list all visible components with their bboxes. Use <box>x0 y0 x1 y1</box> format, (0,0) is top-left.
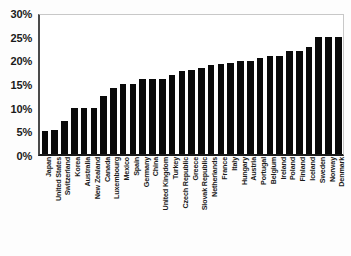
x-label-cell: Korea <box>69 157 79 256</box>
bar <box>296 51 303 154</box>
x-label-cell: New Zealand <box>89 157 99 256</box>
x-label-cell: Sweden <box>314 157 324 256</box>
x-label-cell: Portugal <box>255 157 265 256</box>
x-label-cell: Italy <box>226 157 236 256</box>
bar-cell <box>177 14 187 154</box>
bar <box>100 96 107 154</box>
x-label-cell: Iceland <box>304 157 314 256</box>
bar-cell <box>167 14 177 154</box>
bar <box>276 56 283 154</box>
y-axis: 30%25%20%15%10%5%0% <box>0 0 36 162</box>
x-label-cell: United States <box>50 157 60 256</box>
bar-cell <box>226 14 236 154</box>
bar-cell <box>255 14 265 154</box>
bars-container <box>40 14 343 154</box>
bar-cell <box>157 14 167 154</box>
x-label-cell: Denmark <box>333 157 343 256</box>
x-label-cell: Germany <box>138 157 148 256</box>
bar-cell <box>304 14 314 154</box>
y-tick-label: 15% <box>11 79 32 91</box>
x-label-cell: China <box>148 157 158 256</box>
bar-cell <box>245 14 255 154</box>
x-label-cell: Ireland <box>275 157 285 256</box>
bar <box>51 130 58 154</box>
x-label-cell: Slovak Republic <box>197 157 207 256</box>
bar <box>81 108 88 154</box>
x-label-cell: Czech Republic <box>177 157 187 256</box>
bar <box>306 47 313 154</box>
bar-cell <box>99 14 109 154</box>
bar <box>227 63 234 154</box>
bar <box>110 88 117 154</box>
x-label-cell: Turkey <box>167 157 177 256</box>
bar-cell <box>79 14 89 154</box>
x-label-cell: Spain <box>128 157 138 256</box>
x-label-cell: Hungary <box>236 157 246 256</box>
bar <box>188 70 195 154</box>
bar <box>169 75 176 154</box>
x-label-cell: Switzerland <box>60 157 70 256</box>
x-label-cell: Luxembourg <box>108 157 118 256</box>
y-tick-label: 25% <box>11 32 32 44</box>
bar <box>42 131 49 154</box>
x-label-cell: Belgium <box>265 157 275 256</box>
bar <box>159 79 166 154</box>
bar <box>267 56 274 154</box>
bar-cell <box>275 14 285 154</box>
bar-cell <box>197 14 207 154</box>
x-label-cell: Greece <box>187 157 197 256</box>
y-tick-label: 30% <box>11 8 32 20</box>
x-label-cell: Mexico <box>118 157 128 256</box>
bar-cell <box>216 14 226 154</box>
bar-cell <box>236 14 246 154</box>
bar-cell <box>324 14 334 154</box>
bar-cell <box>294 14 304 154</box>
y-tick-label: 0% <box>17 150 33 162</box>
bar-cell <box>206 14 216 154</box>
bar-cell <box>285 14 295 154</box>
bar-cell <box>265 14 275 154</box>
bar-cell <box>118 14 128 154</box>
x-label-cell: United Kingdom <box>157 157 167 256</box>
bar-cell <box>50 14 60 154</box>
x-label-cell: Finland <box>294 157 304 256</box>
bar <box>149 79 156 154</box>
bar <box>257 58 264 154</box>
bar-cell <box>89 14 99 154</box>
x-label-cell: Norway <box>324 157 334 256</box>
x-label-cell: Japan <box>40 157 50 256</box>
y-tick-label: 10% <box>11 103 32 115</box>
x-label-cell: Canada <box>99 157 109 256</box>
bar-cell <box>108 14 118 154</box>
bar-cell <box>40 14 50 154</box>
bar-cell <box>128 14 138 154</box>
bar <box>325 37 332 154</box>
bar-cell <box>314 14 324 154</box>
bar-cell <box>138 14 148 154</box>
bar-cell <box>60 14 70 154</box>
x-label-cell: France <box>216 157 226 256</box>
bar <box>237 61 244 154</box>
bar <box>139 79 146 154</box>
x-label-cell: Australia <box>79 157 89 256</box>
bar <box>179 71 186 154</box>
y-tick-label: 20% <box>11 55 32 67</box>
bar-cell <box>333 14 343 154</box>
bar <box>247 61 254 154</box>
x-label-cell: Netherlands <box>206 157 216 256</box>
y-tick-label: 5% <box>17 126 33 138</box>
bar <box>335 37 342 154</box>
bar <box>61 121 68 154</box>
x-label-cell: Austria <box>245 157 255 256</box>
bar <box>218 64 225 154</box>
bar-cell <box>148 14 158 154</box>
bar <box>71 108 78 154</box>
bar <box>286 51 293 154</box>
bar <box>91 108 98 154</box>
bar <box>120 84 127 154</box>
x-tick-label: Denmark <box>338 157 345 187</box>
bar <box>198 68 205 154</box>
bar-cell <box>187 14 197 154</box>
bar-chart: 30%25%20%15%10%5%0% JapanUnited StatesSw… <box>0 0 351 256</box>
x-label-cell: Poland <box>285 157 295 256</box>
